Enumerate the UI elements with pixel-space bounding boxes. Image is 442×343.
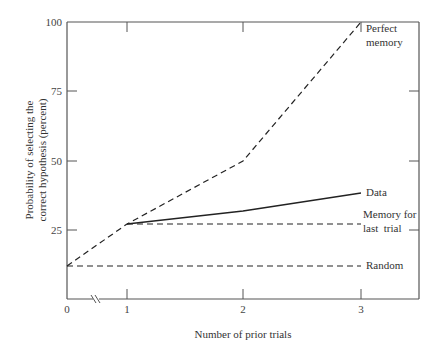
svg-text:memory: memory <box>366 36 403 48</box>
y-tick-75: 75 <box>51 85 63 97</box>
x-tick-0: 0 <box>64 303 70 315</box>
label-data: Data <box>366 186 387 198</box>
y-axis-label: Probability of selecting the correct hyp… <box>23 98 49 221</box>
svg-text:correct hypothesis (percent): correct hypothesis (percent) <box>36 98 49 221</box>
chart-svg: 100 75 50 25 0 1 2 3 Number of prior tri… <box>0 0 442 343</box>
svg-text:last trial: last trial <box>363 222 402 234</box>
svg-text:Probability of selecting the: Probability of selecting the <box>23 100 35 219</box>
y-tick-50: 50 <box>51 155 63 167</box>
svg-text:Memory for: Memory for <box>363 208 417 220</box>
x-axis-label: Number of prior trials <box>195 328 292 340</box>
y-tick-100: 100 <box>46 16 63 28</box>
svg-text:Perfect: Perfect <box>366 22 397 34</box>
series-perfect-memory <box>67 22 361 266</box>
label-perfect-memory: Perfect memory <box>366 22 403 48</box>
x-tick-3: 3 <box>358 303 364 315</box>
label-memory-last-trial: Memory for last trial <box>363 208 417 234</box>
y-tick-25: 25 <box>51 224 63 236</box>
series-data <box>127 193 361 224</box>
x-tick-1: 1 <box>124 303 130 315</box>
label-random: Random <box>366 259 404 271</box>
x-tick-2: 2 <box>240 303 246 315</box>
